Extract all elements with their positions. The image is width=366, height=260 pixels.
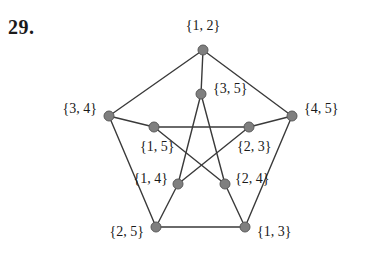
graph-edge (109, 50, 203, 116)
graph-edge (156, 184, 178, 227)
graph-vertex (151, 222, 161, 232)
graph-vertex (198, 45, 208, 55)
graph-canvas (0, 0, 366, 260)
vertex-label-45: {4, 5} (304, 102, 338, 116)
graph-edge (201, 50, 203, 94)
petersen-graph-figure: {1, 2}{3, 4}{4, 5}{2, 5}{1, 3}{3, 5}{1, … (0, 0, 366, 260)
graph-edge (201, 94, 225, 184)
graph-edge (109, 116, 154, 127)
graph-vertex (240, 222, 250, 232)
graph-vertex (173, 179, 183, 189)
vertex-label-12: {1, 2} (186, 19, 220, 33)
figure-page: 29. {1, 2}{3, 4}{4, 5}{2, 5}{1, 3}{3, 5}… (0, 0, 366, 260)
graph-edge (249, 116, 292, 127)
vertex-label-23: {2, 3} (237, 140, 271, 154)
graph-vertex (149, 122, 159, 132)
vertex-label-34: {3, 4} (63, 102, 97, 116)
vertex-label-25: {2, 5} (110, 225, 144, 239)
vertex-label-24: {2, 4} (235, 172, 269, 186)
graph-edge (225, 184, 245, 227)
vertex-label-35: {3, 5} (213, 82, 247, 96)
graph-vertex (287, 111, 297, 121)
graph-edge (178, 94, 201, 184)
vertex-label-15: {1, 5} (140, 140, 174, 154)
graph-vertex (244, 122, 254, 132)
vertex-label-13: {1, 3} (257, 225, 291, 239)
graph-vertex (196, 89, 206, 99)
graph-vertex (104, 111, 114, 121)
graph-vertex (220, 179, 230, 189)
vertex-label-14: {1, 4} (134, 172, 168, 186)
